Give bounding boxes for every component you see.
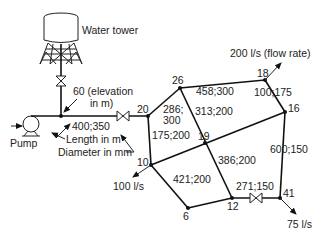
node-10-label: 10 (137, 156, 149, 168)
pipe-20-10-label: 175;200 (152, 129, 190, 141)
pipe-16-41-label: 600;150 (270, 143, 308, 155)
pipe-26-19-label: 313;200 (195, 105, 233, 117)
node-16-label: 16 (288, 102, 300, 114)
main-pipe-label: 400;350 (72, 120, 110, 132)
node-41-label: 41 (283, 187, 295, 199)
valve-12-41-icon (250, 193, 262, 203)
main-valve-icon (117, 111, 129, 121)
elevation-label: 60 (elevation (73, 85, 133, 97)
pipe-12-41-label: 271;150 (236, 180, 274, 192)
elevation-arrow (64, 99, 77, 112)
tower-valve-icon (56, 76, 66, 86)
pipe-18-16-label: 100;175 (254, 86, 292, 98)
demand-10-label: 100 l/s (113, 180, 144, 192)
pipe-19-12-label: 386;200 (218, 154, 256, 166)
demand-41-arrow (280, 198, 296, 214)
water-tower-label: Water tower (82, 24, 139, 36)
pump-label: Pump (10, 137, 38, 149)
node-12-label: 12 (227, 200, 239, 212)
demand-18-label: 200 l/s (flow rate) (230, 47, 311, 59)
legend-length: Length in m (66, 133, 121, 145)
node-20-label: 20 (137, 103, 149, 115)
elevation-unit-label: in m) (90, 97, 113, 109)
pipe-20-26-label-2: 300 (163, 114, 181, 126)
node-26-label: 26 (172, 74, 184, 86)
node-19-label: 19 (198, 130, 210, 142)
demand-41-label: 75 l/s (287, 218, 312, 230)
legend-diameter: Diameter in mm (58, 146, 132, 158)
node-6-label: 6 (183, 210, 189, 222)
pipe-26-18-label: 458;300 (196, 85, 234, 97)
pipe-network-diagram: Water tower 60 (elevation in m) Pump 400… (0, 0, 329, 237)
pump-icon (22, 116, 40, 136)
pipe-10-6-label: 421;200 (173, 173, 211, 185)
